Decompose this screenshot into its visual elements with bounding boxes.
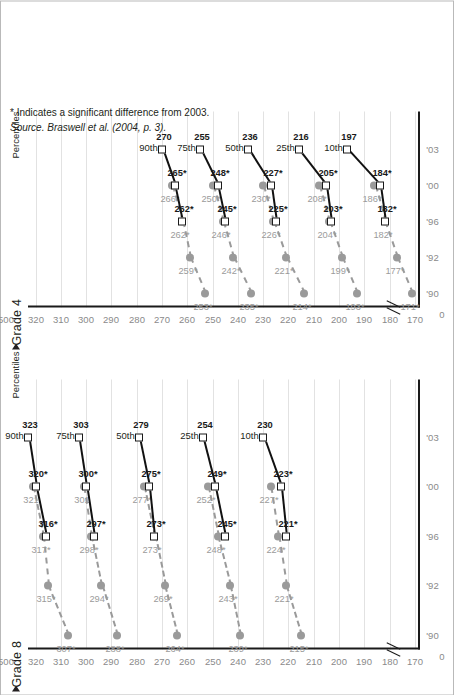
year-axis-tick-label: '00 (427, 179, 438, 191)
chart-panel-grade4: Grade 4 Percentiles 50032031030029028027… (6, 109, 446, 349)
data-point-circle (64, 631, 72, 639)
data-point-value-label: 193* (350, 296, 360, 315)
value-axis-tick-label: 500 (0, 653, 11, 669)
data-point-square (244, 145, 252, 153)
grade4-percentiles-caret (12, 343, 20, 349)
year-axis-tick-label: '00 (427, 480, 438, 492)
data-point-square (214, 181, 222, 189)
data-point-value-label: 273* (151, 513, 161, 532)
data-point-square (135, 433, 143, 441)
value-axis-tick-label: 320 (30, 311, 41, 327)
data-point-square (376, 181, 384, 189)
percentile-caption: 90th (9, 426, 20, 445)
data-point-value-label: 221* (279, 589, 289, 608)
data-point-circle (282, 253, 290, 261)
data-point-value-label: 273* (147, 539, 157, 558)
value-axis-tick-label: 500 (0, 311, 11, 327)
gridline (111, 111, 112, 307)
value-axis-tick-label: 280 (131, 311, 142, 327)
data-point-square (221, 217, 229, 225)
data-point-circle (226, 581, 234, 589)
gridline (415, 379, 416, 649)
value-axis-tick-label: 180 (384, 653, 395, 669)
data-point-circle (408, 289, 416, 297)
data-point-square (282, 532, 290, 540)
gridline (137, 111, 138, 307)
data-point-value-label: 248* (215, 163, 225, 182)
data-point-value-label: 298* (84, 539, 94, 558)
data-point-value-label: 227* (268, 163, 278, 182)
gridline (111, 379, 112, 649)
data-point-value-label: 320* (33, 464, 43, 483)
rotated-figure-canvas: Grade 8 Percentiles 50032031030029028027… (0, 0, 454, 695)
year-axis-tick-label: '96 (427, 215, 438, 227)
data-point-circle (201, 289, 209, 297)
data-point-value-label: 262* (175, 225, 185, 244)
data-point-square (381, 217, 389, 225)
data-point-value-label: 259* (183, 260, 193, 279)
percentile-caption: 25th (184, 426, 195, 445)
data-point-value-label: 230* (256, 189, 266, 208)
value-axis-tick-label: 280 (131, 653, 142, 669)
data-point-circle (186, 253, 194, 261)
data-point-square (82, 482, 90, 490)
gridline (339, 379, 340, 649)
gridline (364, 379, 365, 649)
grade8-percentiles-label: Percentiles (10, 351, 21, 398)
year-axis (418, 111, 420, 307)
grade8-percentiles-caret (12, 685, 20, 691)
data-point-value-label: 182* (382, 199, 392, 218)
value-axis-tick-label: 260 (182, 311, 193, 327)
data-point-value-label: 277* (137, 490, 147, 509)
data-point-value-label: 177* (390, 260, 400, 279)
data-point-value-label: 186* (367, 189, 377, 208)
value-axis-tick-label: 290 (106, 311, 117, 327)
data-point-square (145, 482, 153, 490)
data-point-value-label: 262* (179, 199, 189, 218)
data-point-value-label: 215* (294, 638, 304, 657)
percentile-caption: 25th (280, 138, 291, 157)
data-point-value-label: 307* (61, 638, 71, 657)
data-point-square (343, 145, 351, 153)
percentile-caption: 10th (244, 426, 255, 445)
value-axis-tick-label: 260 (182, 653, 193, 669)
data-point-value-label: 315* (41, 589, 51, 608)
value-axis-tick-label: 250 (207, 653, 218, 669)
data-point-value-label: 239* (233, 638, 243, 657)
year-axis-tick-label: '03 (427, 431, 438, 443)
data-point-value-label: 250* (206, 189, 216, 208)
data-point-square (32, 482, 40, 490)
data-point-value-label: 316* (43, 513, 53, 532)
data-point-value-label: 242* (226, 260, 236, 279)
value-axis-tick-label: 270 (157, 311, 168, 327)
value-axis-tick-label: 210 (308, 653, 319, 669)
data-point-value-label: 288* (110, 638, 120, 657)
data-point-value-label: 254 (200, 416, 210, 432)
figure-source: Source. Braswell et al. (2004, p. 3). (10, 120, 440, 135)
gridline (213, 111, 214, 307)
value-axis-tick-label: 190 (359, 653, 370, 669)
figure-page: Grade 8 Percentiles 50032031030029028027… (0, 0, 454, 695)
data-point-circle (267, 482, 275, 490)
data-point-square (277, 482, 285, 490)
data-point-value-label: 221* (279, 260, 289, 279)
data-point-square (75, 433, 83, 441)
data-point-circle (247, 289, 255, 297)
data-point-value-label: 300* (83, 464, 93, 483)
value-axis-tick-label: 300 (81, 311, 92, 327)
data-point-circle (161, 581, 169, 589)
data-point-value-label: 275* (146, 464, 156, 483)
data-point-value-label: 249* (212, 464, 222, 483)
percentile-caption: 50th (120, 426, 131, 445)
data-point-value-label: 253* (198, 296, 208, 315)
data-point-square (272, 217, 280, 225)
data-point-circle (338, 253, 346, 261)
data-point-square (199, 433, 207, 441)
data-point-circle (44, 581, 52, 589)
data-point-square (90, 532, 98, 540)
data-point-value-label: 269* (158, 589, 168, 608)
data-point-square (150, 532, 158, 540)
value-axis-tick-label: 250 (207, 311, 218, 327)
data-point-circle (393, 253, 401, 261)
value-axis-tick-label: 0 (437, 311, 448, 316)
